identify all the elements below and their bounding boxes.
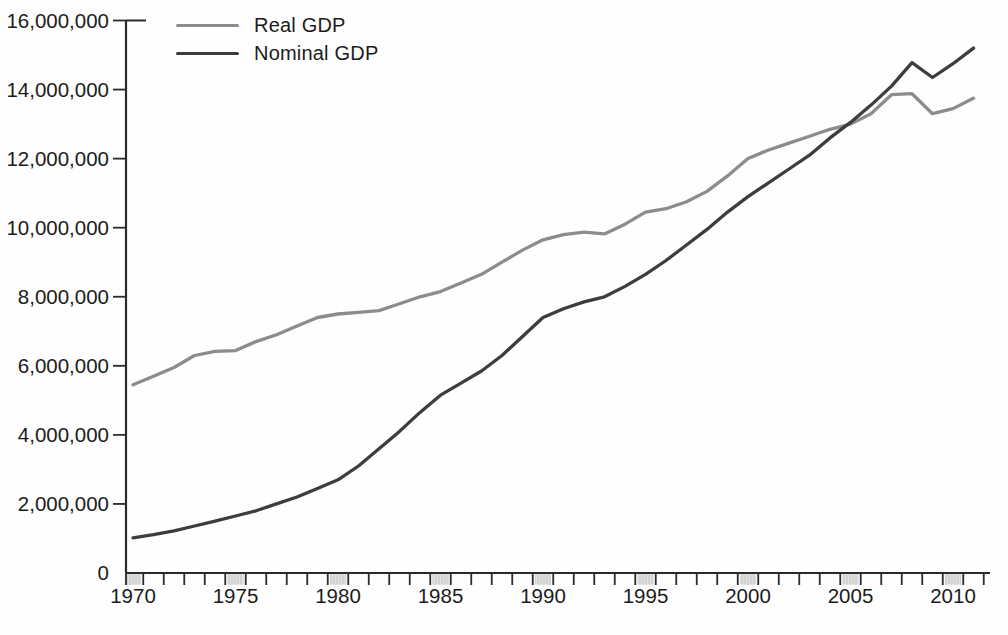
legend-item-nominal-gdp: Nominal GDP bbox=[176, 42, 378, 64]
nominal-gdp-line-swatch bbox=[176, 52, 239, 55]
y-tick-label: 12,000,000 bbox=[6, 147, 109, 170]
y-tick-label: 6,000,000 bbox=[18, 354, 109, 377]
legend-label-real-gdp: Real GDP bbox=[254, 14, 346, 36]
real-gdp-line bbox=[133, 94, 974, 385]
y-tick-label: 14,000,000 bbox=[6, 78, 109, 101]
x-tick-label: 2010 bbox=[930, 584, 976, 607]
y-tick-label: 16,000,000 bbox=[6, 9, 109, 32]
y-tick-label: 2,000,000 bbox=[18, 492, 109, 515]
x-tick-label: 1975 bbox=[213, 584, 259, 607]
y-tick-label: 8,000,000 bbox=[18, 285, 109, 308]
legend-item-real-gdp: Real GDP bbox=[176, 14, 378, 36]
x-tick-label: 1970 bbox=[110, 584, 156, 607]
gdp-line-chart: 19701975198019851990199520002005201002,0… bbox=[0, 0, 1008, 635]
y-tick-label: 10,000,000 bbox=[6, 216, 109, 239]
legend-label-nominal-gdp: Nominal GDP bbox=[254, 42, 378, 64]
x-tick-label: 1990 bbox=[520, 584, 566, 607]
y-tick-label: 0 bbox=[98, 561, 109, 584]
y-tick-label: 4,000,000 bbox=[18, 423, 109, 446]
x-tick-label: 1980 bbox=[315, 584, 361, 607]
x-tick-label: 2000 bbox=[725, 584, 771, 607]
x-tick-label: 2005 bbox=[828, 584, 874, 607]
nominal-gdp-line bbox=[133, 48, 974, 538]
x-tick-label: 1985 bbox=[418, 584, 464, 607]
gdp-chart-figure: 19701975198019851990199520002005201002,0… bbox=[0, 0, 1008, 635]
legend: Real GDP Nominal GDP bbox=[176, 14, 378, 64]
real-gdp-line-swatch bbox=[176, 24, 239, 27]
x-tick-label: 1995 bbox=[623, 584, 669, 607]
